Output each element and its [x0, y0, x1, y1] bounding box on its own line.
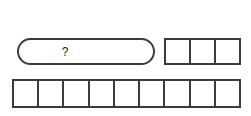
top-strip-cell[interactable]: [166, 40, 191, 63]
bottom-strip-cell[interactable]: [216, 81, 239, 106]
bottom-unit-strip[interactable]: [12, 79, 241, 108]
bottom-strip-cell[interactable]: [14, 81, 39, 106]
top-strip-cell[interactable]: [216, 40, 239, 63]
bottom-strip-cell[interactable]: [191, 81, 216, 106]
unknown-quantity-label: ?: [62, 46, 69, 58]
bottom-strip-cell[interactable]: [115, 81, 140, 106]
unknown-quantity-bar[interactable]: ?: [17, 38, 155, 65]
bottom-strip-cell[interactable]: [64, 81, 89, 106]
top-strip-cell[interactable]: [191, 40, 216, 63]
bottom-strip-cell[interactable]: [39, 81, 64, 106]
bottom-strip-cell[interactable]: [140, 81, 165, 106]
top-unit-strip[interactable]: [164, 38, 241, 65]
bottom-strip-cell[interactable]: [165, 81, 190, 106]
diagram-canvas: ?: [0, 0, 251, 116]
bottom-strip-cell[interactable]: [90, 81, 115, 106]
